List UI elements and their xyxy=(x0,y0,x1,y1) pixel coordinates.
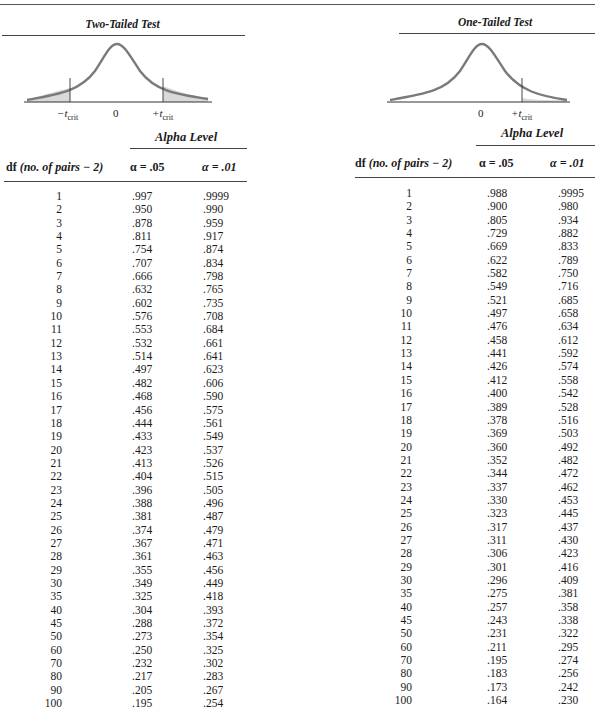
df-cell: 80 xyxy=(382,667,412,680)
table-row: 20.423.537 xyxy=(0,444,250,457)
table-row: 28.306.423 xyxy=(345,547,595,560)
table-row: 45.243.338 xyxy=(345,614,595,627)
df-header: df (no. of pairs − 2) xyxy=(6,160,103,175)
df-cell: 60 xyxy=(382,641,412,654)
df-cell: 26 xyxy=(32,524,62,537)
alpha-05-cell: .622 xyxy=(487,254,507,267)
df-cell: 70 xyxy=(32,657,62,670)
table-row: 16.400.542 xyxy=(345,387,595,400)
alpha-01-cell: .750 xyxy=(558,267,578,280)
alpha-05-cell: .497 xyxy=(132,363,152,376)
table-row: 50.273.354 xyxy=(0,630,250,643)
alpha-05-cell: .553 xyxy=(132,323,152,336)
alpha-05-cell: .288 xyxy=(132,617,152,630)
df-cell: 60 xyxy=(32,644,62,657)
df-cell: 23 xyxy=(382,481,412,494)
table-row: 100.195.254 xyxy=(0,697,250,709)
alpha-01-cell: .456 xyxy=(203,564,223,577)
table-row: 10.497.658 xyxy=(345,307,595,320)
two-tailed-table-body: 1.997.99992.950.9903.878.9594.811.9175.7… xyxy=(0,190,250,709)
alpha-05-cell: .306 xyxy=(487,547,507,560)
alpha-01-cell: .606 xyxy=(203,377,223,390)
header-rule xyxy=(4,181,247,182)
alpha-05-cell: .396 xyxy=(132,484,152,497)
df-cell: 1 xyxy=(32,190,62,203)
alpha-01-cell: .708 xyxy=(203,310,223,323)
table-row: 6.707.834 xyxy=(0,257,250,270)
alpha-05-cell: .476 xyxy=(487,320,507,333)
df-cell: 19 xyxy=(32,430,62,443)
alpha-05-cell: .317 xyxy=(487,521,507,534)
alpha-01-cell: .537 xyxy=(203,444,223,457)
alpha-01-cell: .325 xyxy=(203,644,223,657)
alpha-01-cell: .9995 xyxy=(558,187,584,200)
df-cell: 25 xyxy=(382,507,412,520)
table-row: 5.754.874 xyxy=(0,243,250,256)
table-row: 8.549.716 xyxy=(345,280,595,293)
df-cell: 27 xyxy=(382,534,412,547)
header-rule xyxy=(355,177,595,178)
alpha-01-cell: .561 xyxy=(203,417,223,430)
alpha-01-cell: .492 xyxy=(558,441,578,454)
df-cell: 8 xyxy=(32,283,62,296)
df-cell: 40 xyxy=(382,601,412,614)
df-cell: 12 xyxy=(32,337,62,350)
alpha-01-cell: .462 xyxy=(558,481,578,494)
df-cell: 35 xyxy=(32,590,62,603)
alpha-05-cell: .374 xyxy=(132,524,152,537)
alpha-01-cell: .528 xyxy=(558,401,578,414)
table-row: 80.217.283 xyxy=(0,670,250,683)
alpha-05-cell: .349 xyxy=(132,577,152,590)
alpha-05-cell: .811 xyxy=(132,230,152,243)
alpha-05-cell: .381 xyxy=(132,510,152,523)
alpha-01-cell: .917 xyxy=(203,230,223,243)
table-row: 13.514.641 xyxy=(0,350,250,363)
alpha-05-cell: .378 xyxy=(487,414,507,427)
df-cell: 12 xyxy=(382,334,412,347)
df-cell: 4 xyxy=(382,227,412,240)
alpha-05-cell: .301 xyxy=(487,561,507,574)
table-row: 60.211.295 xyxy=(345,641,595,654)
title-rule xyxy=(399,33,595,34)
table-row: 21.352.482 xyxy=(345,454,595,467)
df-cell: 45 xyxy=(382,614,412,627)
table-row: 21.413.526 xyxy=(0,457,250,470)
df-cell: 100 xyxy=(32,697,62,709)
alpha-01-cell: .874 xyxy=(203,243,223,256)
alpha-01-cell: .437 xyxy=(558,521,578,534)
two-tailed-distribution-curve xyxy=(0,36,250,106)
df-cell: 90 xyxy=(32,684,62,697)
table-row: 17.456.575 xyxy=(0,404,250,417)
alpha-05-cell: .360 xyxy=(487,441,507,454)
alpha-01-cell: .549 xyxy=(203,430,223,443)
table-row: 12.458.612 xyxy=(345,334,595,347)
table-row: 17.389.528 xyxy=(345,401,595,414)
table-row: 7.582.750 xyxy=(345,267,595,280)
alpha-05-cell: .468 xyxy=(132,390,152,403)
alpha-01-header: α = .01 xyxy=(202,160,236,175)
alpha-01-cell: .685 xyxy=(558,294,578,307)
alpha-01-cell: .372 xyxy=(203,617,223,630)
table-row: 26.374.479 xyxy=(0,524,250,537)
alpha-01-cell: .789 xyxy=(558,254,578,267)
table-row: 40.257.358 xyxy=(345,601,595,614)
df-cell: 7 xyxy=(32,270,62,283)
alpha-01-cell: .959 xyxy=(203,217,223,230)
df-cell: 9 xyxy=(382,294,412,307)
table-row: 5.669.833 xyxy=(345,240,595,253)
alpha-01-cell: .641 xyxy=(203,350,223,363)
alpha-01-cell: .590 xyxy=(203,390,223,403)
zero-label: 0 xyxy=(478,107,484,119)
alpha-05-cell: .433 xyxy=(132,430,152,443)
df-cell: 5 xyxy=(382,240,412,253)
table-row: 8.632.765 xyxy=(0,283,250,296)
alpha-05-cell: .164 xyxy=(487,694,507,707)
alpha-01-cell: .482 xyxy=(558,454,578,467)
table-row: 30.349.449 xyxy=(0,577,250,590)
table-row: 100.164.230 xyxy=(345,694,595,707)
table-row: 80.183.256 xyxy=(345,667,595,680)
alpha-05-cell: .330 xyxy=(487,494,507,507)
alpha-01-cell: .735 xyxy=(203,297,223,310)
df-cell: 9 xyxy=(32,297,62,310)
table-row: 23.337.462 xyxy=(345,481,595,494)
